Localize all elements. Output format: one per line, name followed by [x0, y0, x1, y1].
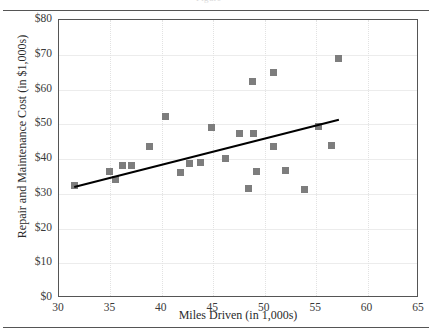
bottom-horizontal-rule	[3, 327, 429, 328]
x-axis-title: Miles Driven (in 1,000s)	[58, 308, 418, 323]
cut-off-header-remnant: Figure	[0, 0, 432, 9]
top-horizontal-rule	[3, 10, 429, 11]
plot-area	[58, 19, 418, 297]
trendline	[74, 119, 339, 188]
y-tick-label: $0	[2, 291, 52, 303]
header-remnant-text: Figure	[196, 0, 221, 3]
scatter-plot-figure: Figure $0$10$20$30$40$50$60$70$80 303540…	[0, 0, 432, 333]
y-axis-title: Repair and Maintenance Cost (in $1,000s)	[15, 7, 30, 267]
trendline-layer	[59, 20, 417, 296]
